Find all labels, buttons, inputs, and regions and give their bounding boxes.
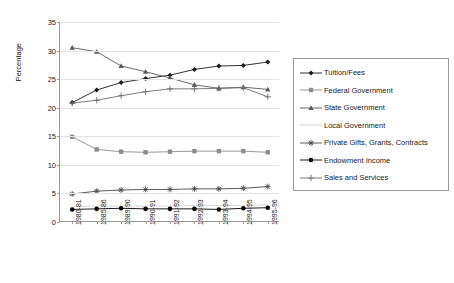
chart-legend: Tuition/FeesFederal GovernmentState Gove…: [293, 58, 449, 191]
y-axis-tick-label: 15: [48, 132, 56, 141]
y-axis-tick-mark: [57, 193, 60, 194]
series-layer: [60, 22, 280, 222]
x-axis-tick-label: 1995-96: [271, 199, 278, 225]
data-point-marker-asterisk: [308, 140, 314, 146]
data-point-marker-square: [119, 150, 123, 154]
data-point-marker-plus: [308, 175, 314, 181]
data-point-marker-circle: [119, 206, 124, 211]
legend-item[interactable]: Endowment Income: [298, 152, 448, 170]
legend-label: State Government: [324, 104, 385, 112]
legend-marker-square-icon: [298, 84, 324, 96]
gridline: [60, 165, 279, 166]
x-axis-tick-mark: [146, 221, 147, 224]
data-point-marker-asterisk: [240, 185, 246, 191]
legend-marker-triangle-icon: [298, 102, 324, 114]
y-axis-tick-mark: [57, 165, 60, 166]
data-point-marker-square: [94, 147, 98, 151]
legend-label: Tuition/Fees: [324, 69, 365, 77]
y-axis-tick-label: 25: [48, 75, 56, 84]
x-axis-tick-label: 1992-93: [197, 199, 204, 225]
x-axis-tick-mark: [72, 221, 73, 224]
data-point-marker-square: [266, 150, 270, 154]
gridline: [60, 108, 279, 109]
legend-marker-circle-icon: [298, 154, 324, 166]
x-axis-tick-label: 1994-95: [246, 199, 253, 225]
x-axis-tick-mark: [194, 221, 195, 224]
y-axis-title: Percentage: [14, 0, 23, 88]
data-point-marker-asterisk: [192, 186, 198, 192]
data-point-marker-circle: [241, 206, 246, 211]
legend-marker-asterisk-icon: [298, 137, 324, 149]
data-point-marker-diamond: [241, 63, 246, 68]
x-axis-tick-mark: [170, 221, 171, 224]
y-axis-tick-mark: [57, 222, 60, 223]
data-point-marker-plus: [142, 89, 148, 95]
y-axis-tick-label: 0: [52, 218, 56, 227]
series-line: [72, 62, 268, 103]
gridline: [60, 51, 279, 52]
data-point-marker-triangle: [70, 45, 75, 50]
legend-item[interactable]: Tuition/Fees: [298, 64, 448, 82]
data-point-marker-circle: [309, 158, 314, 163]
data-point-marker-circle: [143, 207, 148, 212]
data-point-marker-square: [143, 150, 147, 154]
data-point-marker-triangle: [118, 63, 123, 68]
y-axis-tick-mark: [57, 79, 60, 80]
data-point-marker-diamond: [119, 80, 124, 85]
y-axis-tick-mark: [57, 108, 60, 109]
legend-item[interactable]: Sales and Services: [298, 169, 448, 187]
y-axis-tick-label: 10: [48, 160, 56, 169]
data-point-marker-square: [168, 150, 172, 154]
data-point-marker-asterisk: [167, 187, 173, 193]
x-axis-tick-mark: [243, 221, 244, 224]
x-axis-tick-label: 1989-90: [124, 199, 131, 225]
data-point-marker-plus: [240, 85, 246, 91]
legend-marker-line-icon: [298, 119, 324, 131]
data-point-marker-circle: [168, 207, 173, 212]
legend-marker-plus-icon: [298, 172, 324, 184]
legend-item[interactable]: Private Gifts, Grants, Contracts: [298, 134, 448, 152]
data-point-marker-plus: [265, 94, 271, 100]
legend-label: Endowment Income: [324, 157, 390, 165]
x-axis-tick-label: 1990-91: [149, 199, 156, 225]
data-point-marker-diamond: [265, 60, 270, 65]
chart-container: Percentage 051015202530351980-811985-861…: [0, 0, 454, 283]
data-point-marker-asterisk: [265, 184, 271, 190]
data-point-marker-plus: [94, 97, 100, 103]
plot-area: 051015202530351980-811985-861989-901990-…: [59, 22, 279, 222]
data-point-marker-square: [192, 149, 196, 153]
x-axis-tick-label: 1991-92: [173, 199, 180, 225]
data-point-marker-plus: [216, 85, 222, 91]
y-axis-tick-label: 5: [52, 189, 56, 198]
legend-item[interactable]: State Government: [298, 99, 448, 117]
legend-label: Sales and Services: [324, 174, 388, 182]
y-axis-tick-mark: [57, 51, 60, 52]
data-point-marker-plus: [167, 86, 173, 92]
data-point-marker-square: [241, 149, 245, 153]
gridline: [60, 22, 279, 23]
x-axis-tick-mark: [219, 221, 220, 224]
data-point-marker-circle: [94, 207, 99, 212]
data-point-marker-asterisk: [143, 187, 149, 193]
data-point-marker-circle: [265, 205, 270, 210]
x-axis-tick-label: 1993-94: [222, 199, 229, 225]
y-axis-tick-mark: [57, 22, 60, 23]
data-point-marker-diamond: [192, 67, 197, 72]
data-point-marker-square: [217, 149, 221, 153]
y-axis-tick-label: 30: [48, 46, 56, 55]
x-axis-tick-mark: [121, 221, 122, 224]
legend-label: Local Government: [324, 122, 385, 130]
legend-marker-diamond-icon: [298, 67, 324, 79]
legend-label: Private Gifts, Grants, Contracts: [324, 139, 428, 147]
x-axis-tick-mark: [97, 221, 98, 224]
legend-item[interactable]: Federal Government: [298, 82, 448, 100]
series-line: [72, 48, 268, 90]
y-axis-tick-label: 20: [48, 103, 56, 112]
x-axis-tick-label: 1985-86: [100, 199, 107, 225]
gridline: [60, 193, 279, 194]
gridline: [60, 79, 279, 80]
y-axis-title-text: Percentage: [14, 43, 23, 81]
legend-item[interactable]: Local Government: [298, 117, 448, 135]
data-point-marker-diamond: [309, 70, 314, 75]
data-point-marker-diamond: [216, 64, 221, 69]
